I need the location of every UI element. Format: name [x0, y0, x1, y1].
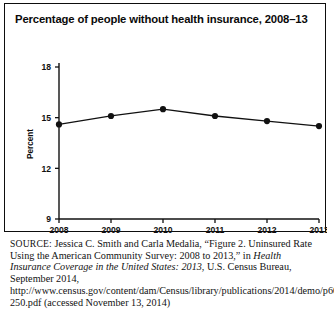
x-tick-label: 2012: [257, 225, 276, 233]
data-point-2013: [316, 123, 322, 129]
y-tick-label: 15: [41, 113, 51, 123]
data-series-line: [59, 109, 319, 126]
y-tick-label: 18: [41, 62, 51, 72]
chart-frame: Percentage of people without health insu…: [4, 3, 326, 232]
data-point-2009: [108, 113, 114, 119]
y-tick-label: 12: [41, 164, 51, 174]
chart-plot-area: 9121518 200820092010201120122013 Percent: [5, 4, 327, 233]
data-point-2011: [212, 113, 218, 119]
x-tick-label: 2013: [309, 225, 327, 233]
source-note: SOURCE: Jessica C. Smith and Carla Medal…: [10, 238, 324, 308]
data-point-markers: [56, 106, 322, 129]
x-tick-label: 2009: [101, 225, 120, 233]
x-tick-label: 2008: [49, 225, 68, 233]
source-label: SOURCE:: [10, 238, 52, 249]
x-tick-label: 2010: [153, 225, 172, 233]
x-axis-tick-labels: 200820092010201120122013: [49, 225, 327, 233]
data-point-2010: [160, 106, 166, 112]
y-tick-label: 9: [46, 214, 51, 224]
y-axis-tick-labels: 9121518: [41, 62, 51, 224]
figure-container: Percentage of people without health insu…: [0, 0, 334, 310]
x-tick-label: 2011: [206, 225, 225, 233]
y-axis-title: Percent: [26, 129, 35, 159]
data-point-2012: [264, 118, 270, 124]
line-chart-svg: 9121518 200820092010201120122013 Percent: [5, 4, 327, 233]
data-point-2008: [56, 121, 62, 127]
